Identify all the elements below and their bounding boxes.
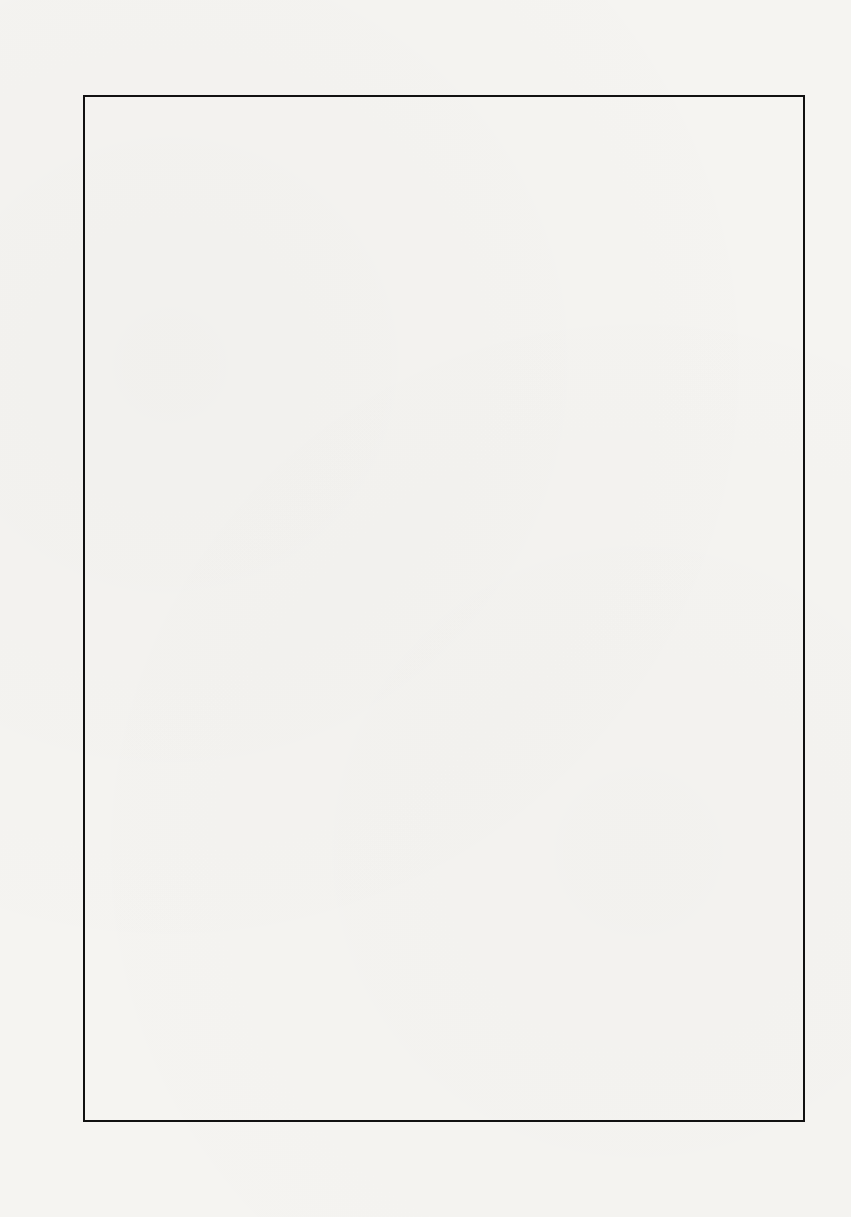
rotated-figure-wrapper: [0, 0, 851, 1217]
plot-area: [83, 95, 805, 1122]
figure: [0, 0, 851, 1217]
plot-svg: [81, 97, 803, 1124]
